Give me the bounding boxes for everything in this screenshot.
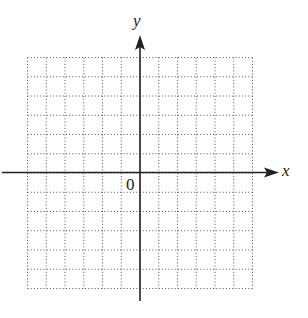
coordinate-plane <box>0 0 308 318</box>
x-axis-label: x <box>282 161 290 181</box>
origin-label: 0 <box>126 175 135 195</box>
y-axis-label: y <box>133 11 141 31</box>
y-axis <box>135 35 145 301</box>
